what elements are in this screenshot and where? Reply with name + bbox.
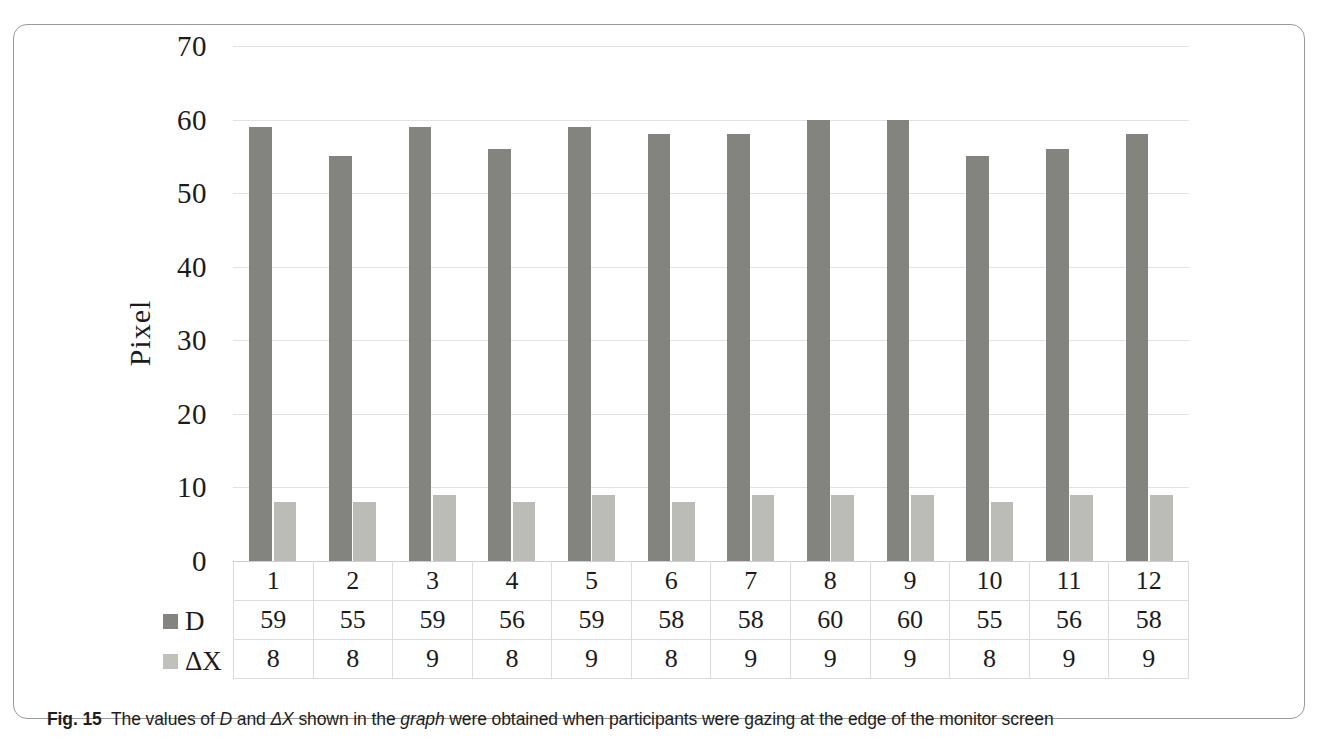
- table-cell: 7: [711, 562, 791, 601]
- data-table-body: 1234567891011125955595659585860605556588…: [234, 562, 1189, 679]
- table-cell: 55: [950, 601, 1030, 640]
- y-tick-label-40: 40: [177, 250, 207, 283]
- figure-frame: Pixel 706050403020100 D ΔX 1234567891011…: [13, 24, 1305, 719]
- table-cell: 8: [313, 640, 393, 679]
- table-cell: 3: [393, 562, 473, 601]
- bar-ΔX-10: [991, 502, 1014, 561]
- legend-swatch-dx-icon: [163, 654, 178, 669]
- table-cell: 60: [870, 601, 950, 640]
- legend-label-d: D: [185, 606, 205, 637]
- table-cell: 6: [631, 562, 711, 601]
- bar-ΔX-8: [831, 495, 854, 561]
- table-cell: 58: [1109, 601, 1189, 640]
- table-cell: 56: [1029, 601, 1109, 640]
- y-tick-label-70: 70: [177, 30, 207, 63]
- table-cell: 59: [234, 601, 314, 640]
- bar-group-10: [950, 46, 1030, 561]
- bar-group-4: [472, 46, 552, 561]
- table-cell: 8: [472, 640, 552, 679]
- bar-D-2: [329, 156, 352, 561]
- bar-D-10: [966, 156, 989, 561]
- table-cell: 9: [552, 640, 632, 679]
- bar-D-11: [1046, 149, 1069, 561]
- caption-text-3: shown in the: [294, 709, 401, 729]
- bar-group-7: [711, 46, 791, 561]
- caption-space: [102, 709, 111, 729]
- y-tick-label-0: 0: [192, 545, 207, 578]
- bar-group-2: [313, 46, 393, 561]
- bar-group-9: [870, 46, 950, 561]
- table-cell: 59: [552, 601, 632, 640]
- table-cell: 10: [950, 562, 1030, 601]
- bar-group-11: [1030, 46, 1110, 561]
- caption-text-1: The values of: [111, 709, 220, 729]
- legend-item-dx: ΔX: [163, 641, 229, 681]
- table-cell: 9: [870, 562, 950, 601]
- data-table: 1234567891011125955595659585860605556588…: [233, 561, 1189, 679]
- table-cell: 56: [472, 601, 552, 640]
- legend-label-dx: ΔX: [185, 646, 222, 677]
- bar-ΔX-2: [353, 502, 376, 561]
- table-cell: 2: [313, 562, 393, 601]
- y-axis-title: Pixel: [120, 268, 160, 398]
- table-cell: 58: [711, 601, 791, 640]
- bar-D-5: [568, 127, 591, 561]
- y-tick-label-30: 30: [177, 324, 207, 357]
- table-cell: 9: [791, 640, 871, 679]
- table-cell: 12: [1109, 562, 1189, 601]
- bar-ΔX-4: [513, 502, 536, 561]
- bar-ΔX-7: [752, 495, 775, 561]
- bar-D-3: [409, 127, 432, 561]
- bar-group-5: [552, 46, 632, 561]
- table-cell: 9: [1029, 640, 1109, 679]
- bar-D-8: [807, 120, 830, 561]
- table-cell: 5: [552, 562, 632, 601]
- caption-text-4: were obtained when participants were gaz…: [445, 709, 1054, 729]
- table-row: 889898999899: [234, 640, 1189, 679]
- bar-D-6: [648, 134, 671, 561]
- bar-ΔX-9: [911, 495, 934, 561]
- table-cell: 8: [234, 640, 314, 679]
- y-tick-label-60: 60: [177, 103, 207, 136]
- table-cell: 8: [950, 640, 1030, 679]
- table-cell: 11: [1029, 562, 1109, 601]
- bar-D-1: [249, 127, 272, 561]
- bar-ΔX-1: [274, 502, 297, 561]
- bar-group-6: [631, 46, 711, 561]
- table-cell: 60: [791, 601, 871, 640]
- table-cell: 59: [393, 601, 473, 640]
- table-cell: 9: [711, 640, 791, 679]
- caption-figure-number: Fig. 15: [47, 709, 102, 729]
- y-tick-label-50: 50: [177, 177, 207, 210]
- table-cell: 8: [631, 640, 711, 679]
- bar-ΔX-12: [1150, 495, 1173, 561]
- bar-group-12: [1109, 46, 1189, 561]
- bar-D-9: [887, 120, 910, 561]
- table-cell: 9: [393, 640, 473, 679]
- caption-emphasis-graph: graph: [400, 709, 444, 729]
- caption-text-2: and: [232, 709, 270, 729]
- bar-ΔX-3: [433, 495, 456, 561]
- table-cell: 4: [472, 562, 552, 601]
- bar-group-1: [233, 46, 313, 561]
- bar-D-12: [1126, 134, 1149, 561]
- table-cell: 55: [313, 601, 393, 640]
- bar-ΔX-5: [592, 495, 615, 561]
- table-cell: 1: [234, 562, 314, 601]
- legend-item-d: D: [163, 601, 229, 641]
- table-row: 123456789101112: [234, 562, 1189, 601]
- figure-caption: Fig. 15 The values of D and ΔX shown in …: [47, 709, 1297, 730]
- bar-ΔX-11: [1070, 495, 1093, 561]
- bar-ΔX-6: [672, 502, 695, 561]
- y-tick-label-10: 10: [177, 471, 207, 504]
- table-cell: 9: [870, 640, 950, 679]
- plot-area: 706050403020100: [233, 46, 1189, 561]
- table-cell: 8: [791, 562, 871, 601]
- bar-group-8: [791, 46, 871, 561]
- y-axis-title-text: Pixel: [123, 300, 157, 367]
- legend-swatch-d-icon: [163, 614, 178, 629]
- bar-D-7: [727, 134, 750, 561]
- bar-D-4: [488, 149, 511, 561]
- y-tick-label-20: 20: [177, 397, 207, 430]
- caption-emphasis-dx: ΔX: [270, 709, 293, 729]
